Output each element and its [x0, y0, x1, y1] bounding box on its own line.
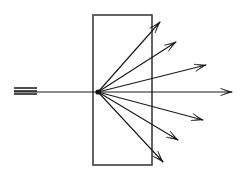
scattering-diagram-figure: Scattering of an incident beam by a slab…: [0, 0, 245, 179]
diagram-canvas: Scattering of an incident beam by a slab…: [0, 0, 245, 179]
scattering-vertex: [95, 89, 100, 94]
